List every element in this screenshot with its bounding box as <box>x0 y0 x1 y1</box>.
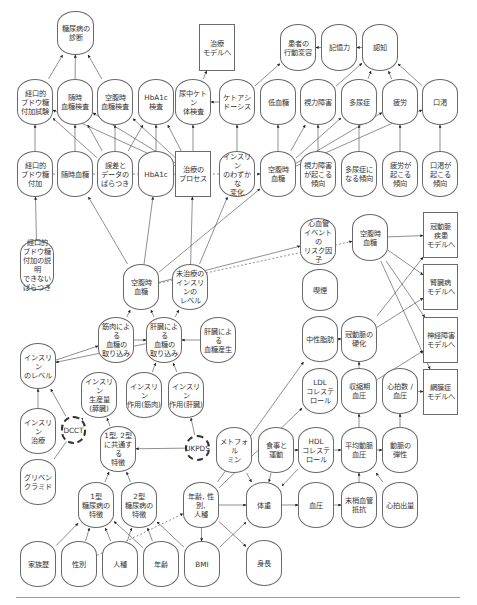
node-cognition: 認知 <box>362 24 398 71</box>
node-polyuria-tend: 多尿症に なる傾向 <box>341 151 377 197</box>
edge-polyuria-to-cognition <box>368 71 371 79</box>
edge-hdl-to-weight <box>282 469 298 486</box>
edge-untreated_ins-to-insulin_slight <box>200 197 228 264</box>
node-fbg-lower: 空腹時 血糖 <box>123 264 159 310</box>
node-ketone-test: 尿中ケトン 体検査 <box>175 79 211 125</box>
edge-sex-to-t1_feat <box>86 528 90 541</box>
edge-dcct-to-insulin_level <box>51 389 66 416</box>
node-age-sex-race: 年齢, 性別, 人種 <box>183 482 219 528</box>
edge-ketone_test-to-to_treat_top <box>203 71 207 79</box>
node-retino-model: 網膜症 モデルへ <box>423 369 458 415</box>
node-liver-uptake: 肝臓による 血糖の 取り込み <box>146 317 182 363</box>
node-ogtt: 経口的 ブドウ糖 付加 <box>17 151 53 197</box>
node-ins-treat: インスリン 治療 <box>20 408 56 454</box>
node-ins-muscle: インスリン 作用(筋肉) <box>126 372 162 418</box>
node-fbg-mid: 空腹時 血糖 <box>260 151 296 197</box>
edge-fbg_lower-to-rand_bg <box>88 197 127 264</box>
node-hba1c: HbA1c <box>138 151 174 197</box>
node-rand-bg: 随時血糖 <box>57 151 93 197</box>
node-ldl: LDL コレステ ロール <box>302 368 338 414</box>
node-race: 人種 <box>102 541 138 587</box>
node-vision: 視力障害 <box>300 79 336 125</box>
edge-fbg_lower-to-fbg_mid <box>159 189 260 272</box>
node-smoking: 喫煙 <box>302 269 338 311</box>
node-peripheral: 末梢血管 抵抗 <box>341 482 377 528</box>
node-sex: 性別 <box>61 541 97 587</box>
node-fatigue: 疲労 <box>382 79 418 125</box>
node-muscle-uptake: 筋肉による 血糖の 取り込み <box>98 317 134 363</box>
node-ins-prod: インスリン 生産量 (膵臓) <box>81 372 117 418</box>
node-ukpds: UKPDS <box>185 435 210 461</box>
node-error-var: 誤差と データの ばらつき <box>97 151 133 197</box>
node-fatigue-tend: 疲労が 起こる 傾向 <box>382 151 418 197</box>
node-fbg-test: 空腹時 血糖検査 <box>97 79 133 125</box>
node-kidney-model: 腎臓病 モデルへ <box>423 264 458 310</box>
node-insulin-level: インスリン のレベル <box>20 343 56 389</box>
node-diet-ex: 食事と 運動 <box>258 427 294 473</box>
node-to-treat-top: 治療 モデルへ <box>199 24 235 71</box>
node-ins-liver: インスリン 作用(肝臓) <box>168 372 204 418</box>
node-memory: 記憶力 <box>321 24 357 71</box>
edge-metformin-to-weight <box>247 473 252 482</box>
edge-ogtt_unexpl-to-ogtt <box>36 197 37 240</box>
node-cv-risk: 心血管 イベントの リスク因子 <box>300 218 336 265</box>
edge-age_sex_race-to-height <box>219 522 246 547</box>
node-dm-diag: 糖尿病の 診断 <box>57 11 94 55</box>
footer-divider <box>16 597 460 598</box>
node-hr-bp: 心拍数 / 血圧 <box>382 368 418 414</box>
node-map: 平均動脈 血圧 <box>341 427 377 473</box>
node-vision-tend: 視力障害 が起こる 傾向 <box>300 151 336 197</box>
node-rand-bg-test: 随時 血糖検査 <box>57 79 93 125</box>
node-t2-feat: 2型 糖尿病の 特徴 <box>121 482 157 528</box>
node-ogtt-unexpl: 経口的 ブドウ糖 付加の説明 できない ばらつき <box>20 240 54 290</box>
node-liver-prod: 肝臓による 血糖産生 <box>200 317 236 363</box>
edge-cardiac_out-to-map <box>376 473 383 482</box>
edge-ins_muscle-to-liver_uptake <box>152 363 155 372</box>
node-ketoacidosis: ケトアシ ドーシス <box>219 79 255 125</box>
node-thirst: 口渇 <box>422 79 458 125</box>
node-height: 身長 <box>246 540 282 586</box>
node-common-feat: 1型, 2型 に共通する 特徴 <box>100 426 136 472</box>
edge-race-to-t1_feat <box>105 528 110 541</box>
node-hypoglycemia: 低血糖 <box>260 79 296 125</box>
edge-diet_ex-to-weight <box>269 473 271 482</box>
node-metformin: メトフォル ミン <box>216 427 252 473</box>
node-hba1c-test: HbA1c 検査 <box>138 79 174 125</box>
node-insulin-slight: インスリン のわずかな 変化 <box>219 151 255 197</box>
node-neuro-model: 神経障害 モデルへ <box>423 317 458 363</box>
node-bmi: BMI <box>184 541 220 587</box>
edge-fbg_test-to-dm_diag <box>88 55 102 79</box>
node-systolic: 収縮期 血圧 <box>341 368 377 414</box>
node-family: 家族歴 <box>20 541 56 587</box>
node-age: 年齢 <box>143 541 179 587</box>
edge-ins_liver-to-liver_uptake <box>173 363 177 372</box>
node-triglyceride: 中性脂肪 <box>302 316 338 362</box>
node-dcct: DCCT <box>61 416 86 444</box>
edge-liver_uptake-to-untreated_ins <box>175 310 178 317</box>
edge-ogtt_test-to-dm_diag <box>49 55 63 79</box>
causal-diagram: 糖尿病の 診断治療 モデルへ患者の 行動変容記憶力認知経口的 ブドウ糖 付加試験… <box>0 0 477 605</box>
node-bp: 血圧 <box>298 482 334 528</box>
node-thirst-tend: 口渇が 起こる 傾向 <box>422 151 458 197</box>
node-t1-feat: 1型 糖尿病の 特徴 <box>78 482 114 528</box>
node-treat-process: 治療の プロセス <box>175 151 211 197</box>
node-ogtt-test: 経口的 ブドウ糖 付加試験 <box>17 79 53 125</box>
edge-treat_process-to-hba1c_test <box>168 125 181 151</box>
edge-error_var-to-hba1c_test <box>128 125 143 151</box>
node-fbg-right: 空腹時 血糖 <box>352 214 388 261</box>
edge-fatigue-to-cognition <box>389 71 392 79</box>
node-glibenclamide: グリベン クラミド <box>20 459 56 505</box>
node-elasticity: 動脈の 弾性 <box>382 427 418 473</box>
node-cardiac-out: 心拍出量 <box>382 482 418 528</box>
edge-liver_uptake-to-fbg_lower <box>151 310 154 317</box>
node-behavior: 患者の 行動変容 <box>280 24 316 71</box>
edge-untreated_ins-to-treat_process <box>191 197 193 264</box>
node-hdl: HDL コレステ ロール <box>298 427 334 473</box>
edge-arterio-to-chd_model <box>377 257 423 316</box>
node-polyuria: 多尿症 <box>341 79 377 125</box>
edge-t1_feat-to-common_feat <box>105 472 109 482</box>
edge-fbg_mid-to-vision <box>291 125 305 151</box>
node-chd-model: 冠動脈 疾患 モデルへ <box>423 212 458 258</box>
edge-muscle_uptake-to-fbg_lower <box>127 310 130 317</box>
edge-fbg_right-to-chd_model <box>388 236 423 237</box>
